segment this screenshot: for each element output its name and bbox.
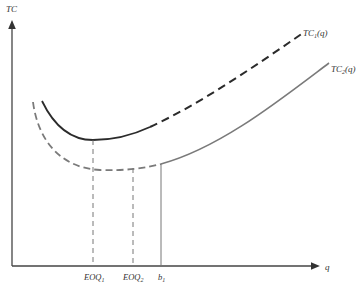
tc1-curve-solid bbox=[42, 101, 150, 140]
total-cost-diagram: TC q EOQ1 EOQ2 b1 TC1(q) TC2(q) bbox=[0, 0, 358, 292]
eoq1-label: EOQ1 bbox=[83, 272, 104, 283]
x-axis-label: q bbox=[325, 262, 330, 272]
y-axis-label: TC bbox=[6, 4, 18, 14]
tc2-curve-dashed bbox=[33, 102, 161, 170]
tc1-label: TC1(q) bbox=[303, 28, 328, 39]
tc2-curve-solid bbox=[161, 63, 329, 164]
b1-label: b1 bbox=[158, 272, 165, 283]
tc1-curve-dashed bbox=[150, 33, 303, 127]
tc2-label: TC2(q) bbox=[331, 64, 356, 75]
eoq2-label: EOQ2 bbox=[122, 272, 143, 283]
